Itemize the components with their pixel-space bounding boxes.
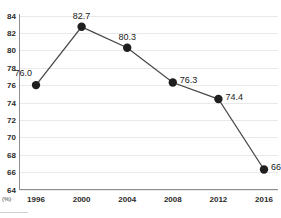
data-point-value-label: 80.3 <box>118 32 136 42</box>
x-axis-tick-label: 2016 <box>255 195 273 204</box>
data-point-value-label: 76.3 <box>180 75 198 85</box>
gridlines <box>20 17 279 191</box>
y-axis-tick-label: 80 <box>7 46 16 55</box>
x-axis-tick-label: 2004 <box>118 195 136 204</box>
data-point-value-label: 76.0 <box>14 68 32 78</box>
x-axis-tick-labels: 199620002004200820122016 <box>27 195 273 204</box>
line-chart: 8482807876747270686664 (%) 1996200020042… <box>0 0 281 218</box>
data-point-marker <box>260 165 268 173</box>
data-point-value-labels: 76.082.780.376.374.466.3 <box>14 11 281 173</box>
y-axis-tick-label: 64 <box>7 186 16 195</box>
chart-canvas: 8482807876747270686664 (%) 1996200020042… <box>0 0 281 218</box>
y-axis-tick-label: 74 <box>7 99 16 108</box>
y-axis-tick-label: 68 <box>7 151 16 160</box>
y-axis-tick-label: 72 <box>7 116 16 125</box>
x-axis-tick-label: 2008 <box>164 195 182 204</box>
data-point-value-label: 82.7 <box>73 11 91 21</box>
data-point-marker <box>123 43 131 51</box>
data-point-marker <box>169 78 177 86</box>
y-axis-tick-label: 82 <box>7 29 16 38</box>
data-point-value-label: 66.3 <box>271 162 281 172</box>
y-axis-tick-labels: 8482807876747270686664 <box>7 12 16 195</box>
x-axis-tick-label: 2012 <box>210 195 228 204</box>
y-axis-tick-label: 70 <box>7 133 16 142</box>
data-point-value-label: 74.4 <box>225 92 243 102</box>
data-point-marker <box>32 81 40 89</box>
x-axis-tick-label: 1996 <box>27 195 45 204</box>
data-point-marker <box>77 23 85 31</box>
y-axis-tick-label: 66 <box>7 168 16 177</box>
y-axis-tick-label: 76 <box>7 81 16 90</box>
data-point-marker <box>214 95 222 103</box>
x-axis-tick-label: 2000 <box>73 195 91 204</box>
y-axis-tick-label: 84 <box>7 12 16 21</box>
y-axis-unit-label: (%) <box>2 196 11 202</box>
